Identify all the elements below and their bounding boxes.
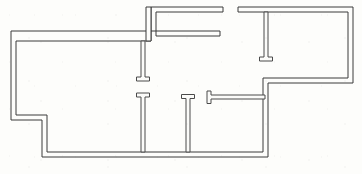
floor-plan-drawing: [0, 0, 362, 174]
floor-plan-canvas: [0, 0, 362, 174]
perimeter-wall-outline: [11, 7, 353, 157]
interior-partition-horizontal-center: [207, 91, 265, 104]
interior-partition-right-wing: [260, 12, 273, 61]
interior-partition-lower-right: [182, 95, 195, 153]
interior-partition-lower-center: [137, 93, 150, 152]
interior-partition-upper-center: [137, 41, 150, 81]
upper-bay-west-wall: [146, 7, 151, 41]
